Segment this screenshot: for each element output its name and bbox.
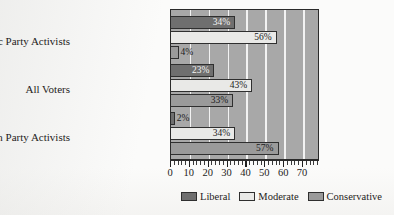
bar-value-label: 34% (213, 129, 230, 139)
x-tick-label-10: 10 (184, 168, 195, 179)
x-axis-tick (253, 161, 254, 165)
legend-item-liberal: Liberal (181, 191, 230, 202)
bar-value-label: 43% (230, 81, 247, 91)
x-axis-tick (257, 161, 258, 165)
x-axis-tick (306, 161, 307, 165)
x-axis-tick (238, 161, 239, 165)
bar-value-label: 33% (211, 96, 228, 106)
legend-item-conservative: Conservative (308, 191, 382, 202)
bar-value-label: 23% (192, 66, 209, 76)
x-axis-tick (294, 161, 295, 165)
bar-moderate: 34% (171, 127, 235, 140)
x-tick-label-0: 0 (167, 168, 172, 179)
bar-liberal: 2% (171, 112, 175, 125)
x-axis-tick (178, 161, 179, 165)
x-axis-tick (219, 161, 220, 165)
x-tick-label-20: 20 (202, 168, 213, 179)
bar-conservative: 33% (171, 94, 233, 107)
x-axis-tick (313, 161, 314, 165)
legend-item-moderate: Moderate (239, 191, 298, 202)
bar-liberal: 34% (171, 16, 235, 29)
x-axis-tick (268, 161, 269, 165)
x-axis-tick (215, 161, 216, 165)
x-axis-tick (193, 161, 194, 165)
x-axis-tick (185, 161, 186, 165)
x-axis-tick (204, 161, 205, 165)
bar-conservative: 4% (171, 46, 179, 59)
x-axis-tick (279, 161, 280, 165)
x-axis-tick (272, 161, 273, 165)
bar-value-label: 56% (254, 33, 271, 43)
x-axis-tick (174, 161, 175, 165)
x-axis-tick (211, 161, 212, 165)
x-tick-label-70: 70 (297, 168, 308, 179)
x-axis-tick (196, 161, 197, 165)
legend-label-liberal: Liberal (200, 191, 230, 202)
x-axis-tick (234, 161, 235, 165)
x-axis-tick (287, 161, 288, 165)
bar-value-label: 34% (213, 18, 230, 28)
legend-swatch-conservative (308, 192, 324, 201)
x-axis (170, 160, 319, 167)
x-tick-label-60: 60 (278, 168, 289, 179)
bar-value-label: 2% (177, 114, 190, 124)
legend-swatch-moderate (239, 192, 255, 201)
x-axis-tick (310, 161, 311, 165)
legend-label-conservative: Conservative (327, 191, 382, 202)
x-axis-tick (200, 161, 201, 165)
x-axis-tick (298, 161, 299, 165)
gridline-60 (284, 10, 286, 159)
x-axis-tick (181, 161, 182, 165)
plot-area: 34%56%4%23%43%33%2%34%57% (170, 9, 319, 160)
x-axis-tick (242, 161, 243, 165)
category-label-all-voters: All Voters (25, 84, 70, 95)
legend-label-moderate: Moderate (258, 191, 298, 202)
x-tick-label-50: 50 (259, 168, 270, 179)
bar-value-label: 57% (256, 144, 273, 154)
x-tick-label-30: 30 (221, 168, 232, 179)
x-tick-label-40: 40 (240, 168, 251, 179)
bar-moderate: 56% (171, 31, 277, 44)
bar-conservative: 57% (171, 142, 279, 155)
bar-value-label: 4% (181, 48, 194, 58)
chart-page: Democratic Party Activists All Voters Re… (0, 0, 394, 215)
category-label-republican-party-activists: Republican Party Activists (0, 132, 70, 143)
x-axis-tick (291, 161, 292, 165)
bar-moderate: 43% (171, 79, 252, 92)
chart-legend: Liberal Moderate Conservative (181, 191, 382, 202)
x-axis-tick (223, 161, 224, 165)
bar-liberal: 23% (171, 64, 214, 77)
gridline-70 (303, 10, 305, 159)
x-axis-tick (249, 161, 250, 165)
x-axis-tick (276, 161, 277, 165)
x-axis-tick (230, 161, 231, 165)
x-axis-tick (261, 161, 262, 165)
legend-swatch-liberal (181, 192, 197, 201)
category-label-democratic-party-activists: Democratic Party Activists (0, 36, 70, 47)
x-axis-tick (317, 161, 318, 165)
